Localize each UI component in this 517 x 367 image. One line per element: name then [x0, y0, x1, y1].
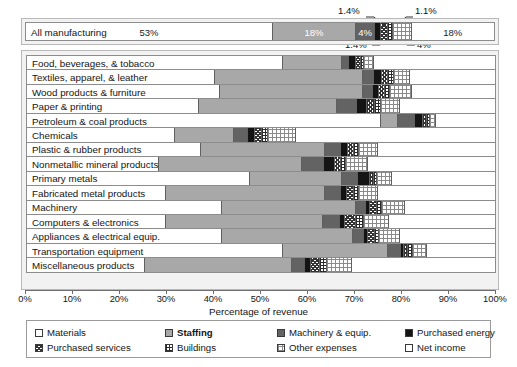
segment-machinery[interactable]: [397, 114, 414, 127]
segment-netincome[interactable]: [426, 244, 495, 257]
table-row[interactable]: Food, beverages, & tobacco: [26, 55, 496, 70]
segment-netincome[interactable]: [399, 229, 495, 242]
segment-machinery[interactable]: [362, 85, 372, 98]
segment-netincome[interactable]: [411, 85, 495, 98]
segment-staffing[interactable]: [221, 229, 352, 242]
segment-other[interactable]: [389, 85, 411, 98]
segment-machinery[interactable]: [291, 258, 303, 271]
segment-materials[interactable]: [27, 244, 282, 257]
segment-other[interactable]: [380, 99, 399, 112]
segment-netincome[interactable]: [404, 201, 495, 214]
segment-materials[interactable]: [27, 99, 198, 112]
legend-item-staffing[interactable]: Staffing: [165, 327, 277, 338]
segment-materials[interactable]: [27, 128, 174, 141]
table-row[interactable]: Nonmetallic mineral products: [26, 156, 496, 171]
segment-materials[interactable]: [27, 258, 144, 271]
segment-netincome[interactable]: [295, 128, 495, 141]
segment-machinery[interactable]: [352, 229, 363, 242]
segment-services[interactable]: [346, 186, 353, 199]
table-row[interactable]: Chemicals: [26, 127, 496, 142]
segment-materials[interactable]: [27, 85, 219, 98]
summary-segment-materials[interactable]: 53%: [26, 23, 272, 40]
segment-staffing[interactable]: [165, 215, 322, 228]
segment-machinery[interactable]: [233, 128, 247, 141]
legend-item-other[interactable]: Other expenses: [277, 342, 405, 353]
segment-netincome[interactable]: [377, 143, 495, 156]
table-row[interactable]: Plastic & rubber products: [26, 142, 496, 157]
segment-machinery[interactable]: [336, 99, 356, 112]
legend-item-materials[interactable]: Materials: [35, 327, 165, 338]
table-row[interactable]: Petroleum & coal products: [26, 113, 496, 128]
segment-materials[interactable]: [27, 157, 158, 170]
segment-machinery[interactable]: [387, 244, 399, 257]
segment-services[interactable]: [366, 99, 373, 112]
segment-energy[interactable]: [414, 114, 423, 127]
segment-netincome[interactable]: [351, 258, 495, 271]
table-row[interactable]: Textiles, apparel, & leather: [26, 69, 496, 84]
segment-materials[interactable]: [27, 215, 165, 228]
segment-other[interactable]: [363, 215, 389, 228]
segment-other[interactable]: [412, 244, 427, 257]
table-row[interactable]: Primary metals: [26, 171, 496, 186]
segment-staffing[interactable]: [214, 70, 361, 83]
segment-other[interactable]: [363, 56, 373, 69]
segment-machinery[interactable]: [341, 172, 357, 185]
segment-materials[interactable]: [27, 56, 282, 69]
segment-netincome[interactable]: [373, 56, 495, 69]
segment-energy[interactable]: [323, 157, 334, 170]
segment-services[interactable]: [310, 258, 320, 271]
segment-netincome[interactable]: [391, 172, 495, 185]
segment-staffing[interactable]: [158, 157, 301, 170]
segment-buildings[interactable]: [355, 215, 363, 228]
table-row[interactable]: Machinery: [26, 200, 496, 215]
segment-machinery[interactable]: [341, 56, 348, 69]
segment-staffing[interactable]: [165, 186, 324, 199]
segment-other[interactable]: [376, 172, 391, 185]
summary-segment-netincome[interactable]: 18%: [411, 23, 494, 40]
segment-netincome[interactable]: [388, 215, 495, 228]
table-row[interactable]: Computers & electronics: [26, 214, 496, 229]
segment-machinery[interactable]: [322, 215, 339, 228]
segment-energy[interactable]: [373, 70, 380, 83]
summary-segment-other[interactable]: [392, 23, 411, 40]
segment-staffing[interactable]: [249, 172, 340, 185]
segment-other[interactable]: [393, 70, 409, 83]
segment-staffing[interactable]: [221, 201, 354, 214]
segment-materials[interactable]: [27, 201, 221, 214]
table-row[interactable]: Wood products & furniture: [26, 84, 496, 99]
segment-machinery[interactable]: [324, 186, 340, 199]
segment-staffing[interactable]: [174, 128, 233, 141]
segment-staffing[interactable]: [198, 99, 336, 112]
segment-materials[interactable]: [27, 172, 249, 185]
segment-materials[interactable]: [27, 114, 380, 127]
segment-energy[interactable]: [247, 128, 254, 141]
segment-other[interactable]: [267, 128, 295, 141]
legend-item-machinery[interactable]: Machinery & equip.: [277, 327, 405, 338]
summary-bar-all-manufacturing[interactable]: 53%18%4%18% All manufacturing: [25, 22, 495, 41]
segment-energy[interactable]: [357, 172, 369, 185]
segment-staffing[interactable]: [219, 85, 362, 98]
segment-netincome[interactable]: [367, 157, 495, 170]
segment-other[interactable]: [345, 157, 367, 170]
segment-other[interactable]: [358, 186, 377, 199]
segment-staffing[interactable]: [380, 114, 396, 127]
segment-other[interactable]: [378, 229, 399, 242]
table-row[interactable]: Miscellaneous products: [26, 257, 496, 272]
segment-energy[interactable]: [340, 143, 347, 156]
segment-netincome[interactable]: [399, 99, 495, 112]
segment-staffing[interactable]: [200, 143, 324, 156]
legend-item-netincome[interactable]: Net income: [405, 342, 515, 353]
legend-item-services[interactable]: Purchased services: [35, 342, 165, 353]
segment-services[interactable]: [344, 215, 355, 228]
segment-materials[interactable]: [27, 143, 200, 156]
segment-materials[interactable]: [27, 186, 165, 199]
segment-machinery[interactable]: [324, 143, 339, 156]
summary-segment-machinery[interactable]: 4%: [355, 23, 374, 40]
segment-staffing[interactable]: [282, 56, 341, 69]
table-row[interactable]: Fabricated metal products: [26, 185, 496, 200]
legend-item-energy[interactable]: Purchased energy: [405, 327, 515, 338]
segment-machinery[interactable]: [301, 157, 323, 170]
segment-energy[interactable]: [356, 99, 367, 112]
legend-item-buildings[interactable]: Buildings: [165, 342, 277, 353]
segment-staffing[interactable]: [144, 258, 291, 271]
